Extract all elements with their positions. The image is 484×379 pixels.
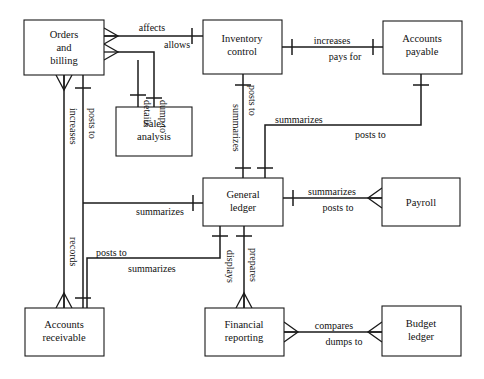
rel-label-records: records — [68, 237, 79, 267]
rel-label-posts-to-ar: posts to — [87, 108, 98, 139]
rel-label-prepares: prepares — [248, 248, 259, 282]
rel-label-pays-for: pays for — [329, 51, 362, 62]
entity-accounts-payable[interactable]: Accounts payable — [383, 21, 462, 74]
entity-general-ledger[interactable]: General ledger — [203, 178, 283, 226]
entity-label-line2: ledger — [230, 202, 257, 213]
rel-label-allows: allows — [164, 39, 190, 50]
rel-label-posts-to-payroll: posts to — [323, 202, 354, 213]
entity-label-line2: ledger — [408, 331, 435, 342]
rel-label-posts-to-gl-ar: posts to — [96, 247, 127, 258]
entity-label-line1: Payroll — [406, 197, 436, 208]
entity-label-line1: Inventory — [222, 33, 264, 44]
entity-budget-ledger[interactable]: Budget ledger — [382, 306, 461, 356]
entity-inventory-control[interactable]: Inventory control — [203, 20, 282, 74]
entity-orders-and-billing[interactable]: Orders and billing — [24, 20, 104, 75]
entity-label-line1: Orders — [50, 29, 79, 40]
entity-label-line1: Accounts — [402, 33, 442, 44]
entity-label-line2: receivable — [42, 332, 85, 343]
entity-label-line1: Budget — [406, 318, 436, 329]
entity-label-line1: Financial — [224, 319, 263, 330]
entity-label-line3: billing — [50, 55, 78, 66]
er-diagram-canvas: Orders and billing Inventory control Acc… — [0, 0, 484, 379]
entity-financial-reporting[interactable]: Financial reporting — [205, 308, 284, 356]
rel-label-increases-ap: increases — [314, 35, 351, 46]
rel-label-compares: compares — [315, 320, 353, 331]
entity-accounts-receivable[interactable]: Accounts receivable — [25, 308, 104, 356]
line-posts-to-gl-ap — [265, 74, 421, 178]
entity-label-line2: and — [56, 42, 72, 53]
rel-label-displays: displays — [225, 250, 236, 283]
rel-label-summarizes-payroll: summarizes — [308, 186, 356, 197]
rel-label-posts-to-gl-inv: posts to — [247, 85, 258, 116]
rel-label-affects: affects — [139, 22, 166, 33]
rel-label-posts-to-gl-ap: posts to — [355, 129, 386, 140]
rel-label-summarizes-ap: summarizes — [275, 114, 323, 125]
entity-sales-analysis[interactable]: Sales analysis — [116, 107, 192, 156]
entity-label-line2: reporting — [225, 332, 264, 343]
er-diagram-svg: Orders and billing Inventory control Acc… — [0, 0, 484, 379]
entity-label-line1: Accounts — [44, 319, 84, 330]
entity-payroll[interactable]: Payroll — [382, 178, 460, 226]
rel-label-summarizes-ob: summarizes — [136, 206, 184, 217]
rel-label-summarizes-ar: summarizes — [128, 263, 176, 274]
entity-label-line2: payable — [406, 46, 439, 57]
relationship-orders-second-foot — [104, 44, 118, 60]
rel-label-summarizes-inv: summarizes — [231, 104, 242, 152]
relationship-payable-ledger[interactable] — [257, 74, 429, 178]
rel-label-increases-ar: increases — [68, 108, 79, 145]
rel-label-details: details — [142, 100, 153, 126]
relationship-dump-to-details[interactable] — [118, 52, 162, 107]
entity-label-line2: control — [227, 46, 257, 57]
rel-label-dump-to: dump to — [158, 100, 169, 133]
rel-label-dumps-to: dumps to — [326, 336, 363, 347]
entity-label-line1: General — [226, 189, 259, 200]
